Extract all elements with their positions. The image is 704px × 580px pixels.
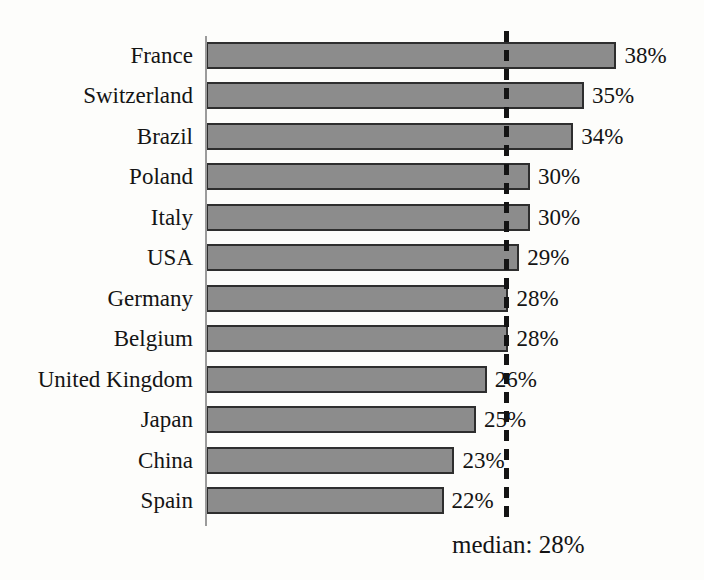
- bar-row: Japan 25%: [0, 400, 667, 441]
- value-label: 30%: [538, 206, 580, 229]
- country-label: Germany: [0, 287, 206, 310]
- country-label: Japan: [0, 408, 206, 431]
- bar: [206, 42, 616, 69]
- country-label: China: [0, 449, 206, 472]
- country-label: Spain: [0, 489, 206, 512]
- bar-rows: France 38% Switzerland 35% Brazil 34% Po…: [0, 35, 667, 521]
- bar: [206, 244, 519, 271]
- y-axis-line: [205, 36, 207, 526]
- bar-row: Spain 22%: [0, 481, 667, 522]
- bar: [206, 82, 584, 109]
- country-label: United Kingdom: [0, 368, 206, 391]
- bar: [206, 366, 487, 393]
- country-label: USA: [0, 246, 206, 269]
- value-label: 29%: [527, 246, 569, 269]
- value-label: 26%: [495, 368, 537, 391]
- value-label: 28%: [516, 327, 558, 350]
- country-label: Italy: [0, 206, 206, 229]
- median-dashed-line: [504, 31, 509, 520]
- value-label: 28%: [516, 287, 558, 310]
- bar-row: Germany 28%: [0, 278, 667, 319]
- bar-row: China 23%: [0, 440, 667, 481]
- value-label: 38%: [624, 44, 666, 67]
- bar-row: Italy 30%: [0, 197, 667, 238]
- bar-row: USA 29%: [0, 238, 667, 279]
- bar: [206, 487, 444, 514]
- bar: [206, 325, 508, 352]
- country-label: Belgium: [0, 327, 206, 350]
- median-label: median: 28%: [452, 532, 585, 557]
- bar: [206, 447, 454, 474]
- chart-canvas: France 38% Switzerland 35% Brazil 34% Po…: [0, 0, 704, 580]
- bar-row: France 38%: [0, 35, 667, 76]
- bar-row: United Kingdom 26%: [0, 359, 667, 400]
- country-label: Brazil: [0, 125, 206, 148]
- country-label: France: [0, 44, 206, 67]
- bar: [206, 285, 508, 312]
- value-label: 23%: [462, 449, 504, 472]
- country-label: Switzerland: [0, 84, 206, 107]
- bar: [206, 406, 476, 433]
- value-label: 35%: [592, 84, 634, 107]
- value-label: 22%: [452, 489, 494, 512]
- bar-row: Brazil 34%: [0, 116, 667, 157]
- country-label: Poland: [0, 165, 206, 188]
- bar: [206, 123, 573, 150]
- bar-row: Switzerland 35%: [0, 76, 667, 117]
- bar-row: Belgium 28%: [0, 319, 667, 360]
- bar: [206, 163, 530, 190]
- value-label: 30%: [538, 165, 580, 188]
- bar: [206, 204, 530, 231]
- value-label: 34%: [581, 125, 623, 148]
- bar-row: Poland 30%: [0, 157, 667, 198]
